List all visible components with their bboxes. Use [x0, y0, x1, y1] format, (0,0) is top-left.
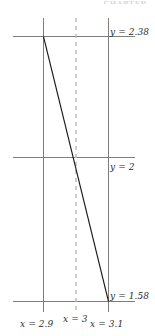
vertical-gridlines [44, 18, 109, 314]
x-label-center: x = 3 [63, 315, 88, 324]
x-label-left: x = 2.9 [20, 320, 53, 329]
y-label-bottom: y = 1.58 [110, 292, 149, 301]
y-label-top: y = 2.38 [110, 28, 149, 37]
figure-container: CHAPTER y = 2.38 y = 2 y = 1.58 x = 2.9 … [0, 0, 155, 336]
y-label-middle: y = 2 [110, 163, 135, 172]
x-label-right: x = 3.1 [90, 320, 123, 329]
